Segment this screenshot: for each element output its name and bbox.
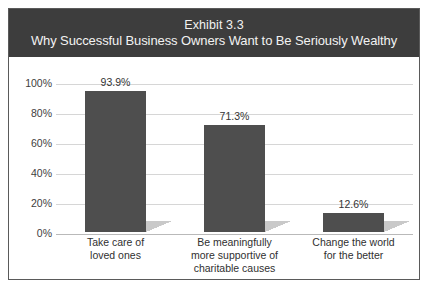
category-label: Be meaningfullymore supportive ofcharita… <box>175 236 294 275</box>
bar-shadow <box>265 221 291 232</box>
y-axis-tick-label: 0% <box>9 227 52 239</box>
category-label: Take care ofloved ones <box>56 236 175 262</box>
y-axis-tick-label: 60% <box>9 137 52 149</box>
chart-title-header: Exhibit 3.3 Why Successful Business Owne… <box>9 9 419 57</box>
chart-title: Why Successful Business Owners Want to B… <box>31 33 397 48</box>
category-label-line: charitable causes <box>175 262 294 275</box>
y-axis-tick-label: 100% <box>9 77 52 89</box>
bar-shadow <box>146 221 172 232</box>
y-axis-tick-label: 20% <box>9 197 52 209</box>
category-labels: Take care ofloved onesBe meaningfullymor… <box>56 232 413 279</box>
category-label: Change the worldfor the better <box>294 236 413 262</box>
bar-value-label: 12.6% <box>307 198 400 210</box>
bar-shadow <box>384 221 410 232</box>
category-label-line: Take care of <box>56 236 175 249</box>
chart-figure: Exhibit 3.3 Why Successful Business Owne… <box>8 8 420 280</box>
category-label-line: for the better <box>294 249 413 262</box>
y-axis-tick-label: 80% <box>9 107 52 119</box>
bar[interactable] <box>323 213 384 232</box>
bar-value-label: 93.9% <box>69 76 162 88</box>
category-label-line: loved ones <box>56 249 175 262</box>
exhibit-number: Exhibit 3.3 <box>184 18 243 33</box>
plot-area: 0%20%40%60%80%100% 93.9%71.3%12.6% Take … <box>9 57 419 279</box>
bar-value-label: 71.3% <box>188 110 281 122</box>
category-label-line: Change the world <box>294 236 413 249</box>
category-label-line: more supportive of <box>175 249 294 262</box>
bar[interactable] <box>204 125 265 232</box>
bar[interactable] <box>85 91 146 232</box>
y-axis-tick-label: 40% <box>9 167 52 179</box>
category-label-line: Be meaningfully <box>175 236 294 249</box>
